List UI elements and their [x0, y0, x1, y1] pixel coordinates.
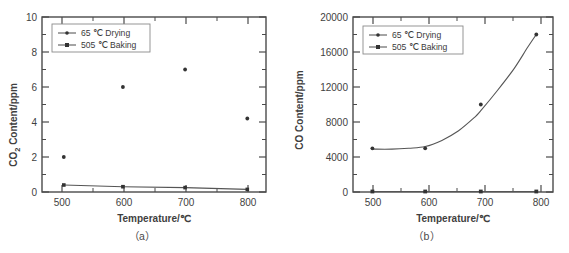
y-tick-label: 2 [31, 152, 37, 163]
chart-panel-b: CO Content/ppm 20000 16000 12000 8000 40… [285, 0, 569, 253]
y-tick-label: 10 [26, 12, 38, 23]
y-tick-label: 0 [31, 187, 37, 198]
chart-a-y-minor-ticks [42, 35, 266, 175]
svg-text:CO2 Content/ppm: CO2 Content/ppm [8, 83, 22, 167]
legend-marker-baking-square-icon [376, 45, 380, 49]
y-title-rest: Content/ppm [8, 83, 19, 148]
chart-a-drying-markers [62, 68, 249, 159]
chart-b-svg: CO Content/ppm 20000 16000 12000 8000 40… [285, 0, 569, 225]
y-title-base: CO [8, 152, 19, 167]
chart-b-legend: 65 ℃ Drying 505 ℃ Baking [363, 26, 463, 54]
chart-b-y-tick-labels: 20000 16000 12000 8000 4000 0 [320, 12, 348, 198]
legend-marker-drying-dot-icon [65, 31, 69, 35]
chart-a-y-axis-title: CO2 Content/ppm [8, 83, 22, 167]
y-tick-label: 4000 [325, 152, 348, 163]
x-tick-label: 600 [420, 197, 437, 208]
chart-panel-a: CO2 Content/ppm 10 8 6 4 2 0 [0, 0, 285, 253]
y-tick-label: 4 [31, 117, 37, 128]
x-tick-label: 700 [476, 197, 493, 208]
chart-a-x-tick-labels: 500 600 700 800 [54, 197, 257, 208]
data-point [423, 190, 427, 194]
y-tick-label: 20000 [320, 12, 348, 23]
legend-label-drying: 65 ℃ Drying [392, 30, 441, 40]
chart-b-x-tick-labels: 500 600 700 800 [364, 197, 549, 208]
legend-marker-drying-dot-icon [376, 33, 380, 37]
data-point [478, 103, 482, 107]
chart-b-y-axis-title: CO Content/ppm [294, 70, 305, 150]
chart-a-svg: CO2 Content/ppm 10 8 6 4 2 0 [0, 0, 284, 225]
x-tick-label: 600 [116, 197, 133, 208]
data-point [534, 33, 538, 37]
data-point [246, 188, 250, 192]
x-tick-label: 500 [364, 197, 381, 208]
chart-b-x-axis-title: Temperature/℃ [416, 213, 490, 224]
x-tick-label: 800 [240, 197, 257, 208]
data-point [183, 186, 187, 190]
x-tick-label: 700 [178, 197, 195, 208]
y-tick-label: 0 [342, 187, 348, 198]
y-tick-label: 12000 [320, 82, 348, 93]
data-point [370, 146, 374, 150]
data-point [478, 190, 482, 194]
chart-a-legend: 65 ℃ Drying 505 ℃ Baking [52, 24, 150, 52]
chart-a-caption: （a） [0, 228, 285, 243]
legend-label-baking: 505 ℃ Baking [392, 42, 448, 52]
chart-b-caption: （b） [285, 228, 569, 243]
legend-marker-baking-square-icon [65, 43, 69, 47]
data-point [121, 85, 125, 89]
y-tick-label: 8000 [325, 117, 348, 128]
y-tick-label: 6 [31, 82, 37, 93]
x-tick-label: 500 [54, 197, 71, 208]
chart-a-x-axis-title: Temperature/℃ [117, 213, 191, 224]
y-tick-label: 8 [31, 47, 37, 58]
y-tick-label: 16000 [320, 47, 348, 58]
data-point [183, 68, 187, 72]
legend-label-baking: 505 ℃ Baking [81, 40, 137, 50]
data-point [121, 185, 125, 189]
figure-container: CO2 Content/ppm 10 8 6 4 2 0 [0, 0, 569, 253]
legend-label-drying: 65 ℃ Drying [81, 28, 130, 38]
data-point [534, 190, 538, 194]
chart-a-y-tick-labels: 10 8 6 4 2 0 [26, 12, 38, 198]
x-tick-label: 800 [532, 197, 549, 208]
data-point [62, 155, 66, 159]
data-point [423, 146, 427, 150]
chart-a-baking-line [64, 185, 248, 189]
data-point [370, 190, 374, 194]
data-point [245, 117, 249, 121]
data-point [62, 183, 66, 187]
